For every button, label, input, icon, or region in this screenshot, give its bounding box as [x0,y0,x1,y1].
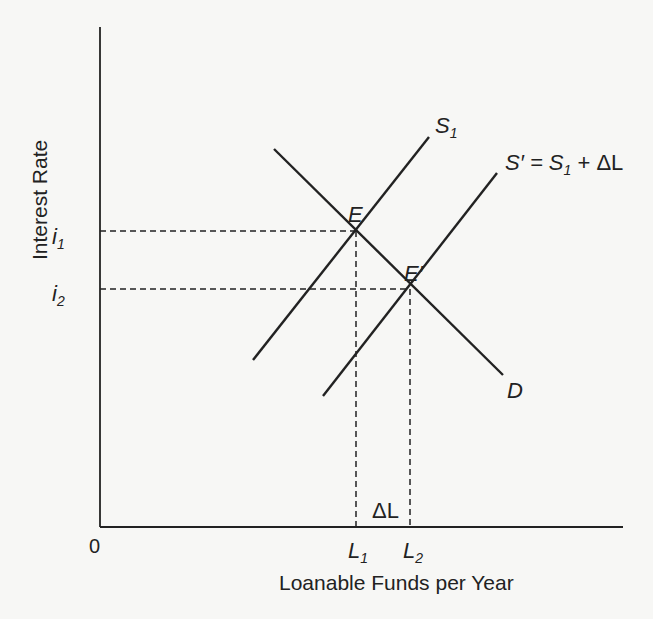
s1-curve-label: S1 [435,115,457,137]
equilibrium-e-label: E [348,204,363,226]
demand-curve [274,149,503,375]
i2-tick-label: i2 [52,283,65,305]
y-axis-label: Interest Rate [28,140,52,260]
supply-curve-s1 [253,137,429,360]
i1-tick-label: i1 [52,226,65,248]
origin-label: 0 [89,536,100,556]
sprime-curve-label: S′ = S1 + ΔL [505,152,623,174]
demand-curve-label: D [507,380,523,402]
l2-tick-label: L2 [403,540,423,562]
l1-tick-label: L1 [348,540,368,562]
equilibrium-eprime-label: E′ [404,263,423,285]
x-axis-label: Loanable Funds per Year [279,572,514,593]
supply-demand-diagram [0,0,653,619]
delta-l-annotation: ΔL [372,500,399,522]
